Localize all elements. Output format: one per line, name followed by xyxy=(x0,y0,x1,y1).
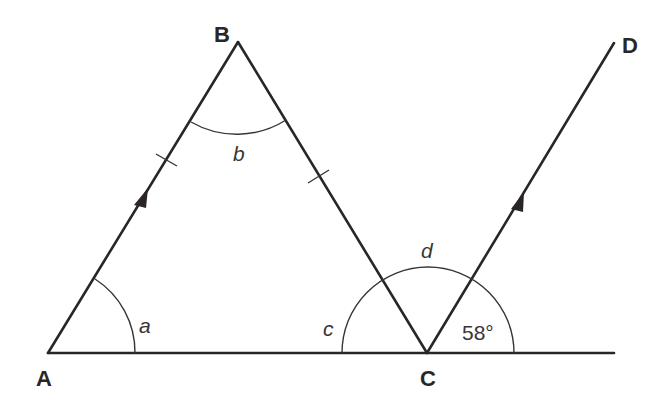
point-label-b: B xyxy=(214,22,230,47)
point-label-d: D xyxy=(622,33,638,58)
equal-tick-bc xyxy=(308,170,329,183)
equal-tick-ab xyxy=(156,154,177,166)
angle-arc-a xyxy=(95,279,135,353)
side-bc xyxy=(238,42,427,353)
angle-label-c: c xyxy=(323,317,334,340)
geometry-diagram: A B C D a b c d 58° xyxy=(0,0,667,409)
angle-label-b: b xyxy=(233,142,245,165)
angle-arc-b xyxy=(191,120,286,134)
point-label-a: A xyxy=(36,366,52,391)
parallel-arrow-icon-cd xyxy=(511,192,524,212)
angle-label-d: d xyxy=(421,239,434,262)
angle-label-a: a xyxy=(139,314,151,337)
parallel-arrow-icon-ab xyxy=(134,188,148,208)
angle-label-given: 58° xyxy=(462,321,494,344)
point-label-c: C xyxy=(420,366,436,391)
